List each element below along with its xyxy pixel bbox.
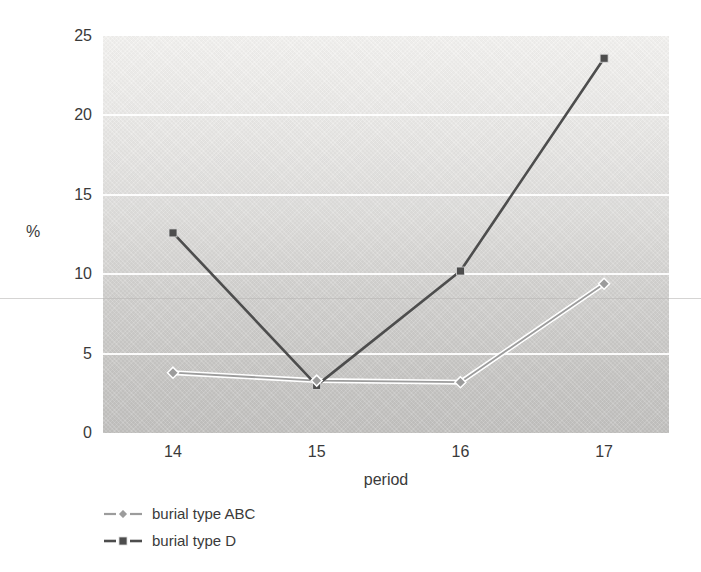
chart-figure: 0510152025 14151617 % period burial type… <box>0 0 701 572</box>
legend: burial type ABC burial type D <box>103 500 255 554</box>
y-tick-label-15: 15 <box>34 186 92 204</box>
y-tick-label-5: 5 <box>34 345 92 363</box>
legend-label: burial type ABC <box>152 505 255 522</box>
x-tick-label-15: 15 <box>293 443 341 461</box>
series-plot <box>103 36 669 433</box>
y-tick-label-20: 20 <box>34 106 92 124</box>
diamond-line-marker-icon <box>103 507 143 521</box>
x-tick-label-16: 16 <box>436 443 484 461</box>
x-tick-label-14: 14 <box>149 443 197 461</box>
square-line-marker-icon <box>103 534 143 548</box>
y-tick-label-10: 10 <box>34 265 92 283</box>
y-axis-label: % <box>26 223 54 241</box>
legend-item-burial-type-d: burial type D <box>103 527 255 554</box>
y-tick-label-25: 25 <box>34 27 92 45</box>
legend-item-burial-type-abc: burial type ABC <box>103 500 255 527</box>
legend-label: burial type D <box>152 532 236 549</box>
y-tick-label-0: 0 <box>34 424 92 442</box>
x-tick-label-17: 17 <box>580 443 628 461</box>
x-axis-label: period <box>103 471 669 489</box>
